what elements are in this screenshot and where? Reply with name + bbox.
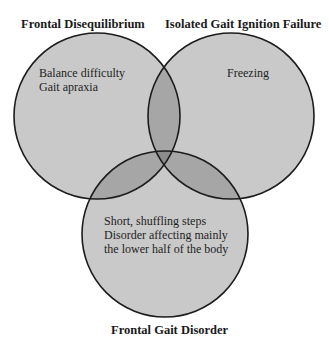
item-balance-difficulty: Balance difficulty [39,66,125,80]
item-disorder-affecting-mainly: Disorder affecting mainly [104,228,228,242]
item-gait-apraxia: Gait apraxia [39,80,125,94]
title-frontal-disequilibrium: Frontal Disequilibrium [21,18,145,31]
title-isolated-gait-ignition-failure: Isolated Gait Ignition Failure [165,18,321,31]
items-frontal-gait-disorder: Short, shuffling steps Disorder affectin… [104,214,228,256]
venn-diagram [0,0,329,339]
items-frontal-disequilibrium: Balance difficulty Gait apraxia [39,66,125,94]
item-lower-half-of-body: the lower half of the body [104,242,228,256]
items-isolated-gait-ignition-failure: Freezing [227,66,269,80]
item-short-shuffling-steps: Short, shuffling steps [104,214,228,228]
title-frontal-gait-disorder: Frontal Gait Disorder [111,324,228,337]
item-freezing: Freezing [227,66,269,80]
